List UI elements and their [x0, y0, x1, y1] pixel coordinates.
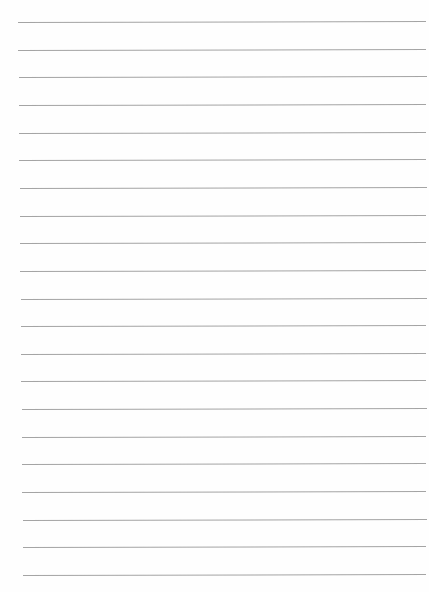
ruled-line	[22, 463, 426, 465]
ruled-line	[20, 270, 426, 272]
ruled-line	[21, 408, 426, 410]
ruled-line	[19, 104, 426, 106]
ruled-line	[18, 49, 426, 51]
ruled-line	[20, 297, 426, 299]
ruled-line	[20, 214, 426, 216]
ruled-line	[20, 242, 426, 244]
ruled-line	[21, 353, 426, 355]
ruled-line	[19, 132, 426, 134]
ruled-line	[22, 436, 426, 438]
ruled-line	[22, 519, 426, 521]
ruled-line	[19, 187, 426, 189]
ruled-line	[22, 491, 426, 493]
ruled-line	[23, 546, 426, 548]
ruled-line	[21, 380, 426, 382]
ruled-line	[18, 21, 426, 23]
ruled-line	[19, 159, 426, 161]
ruled-line	[18, 76, 426, 78]
ruled-line	[21, 325, 426, 327]
ruled-line	[23, 574, 426, 576]
lined-paper-page	[0, 0, 429, 592]
